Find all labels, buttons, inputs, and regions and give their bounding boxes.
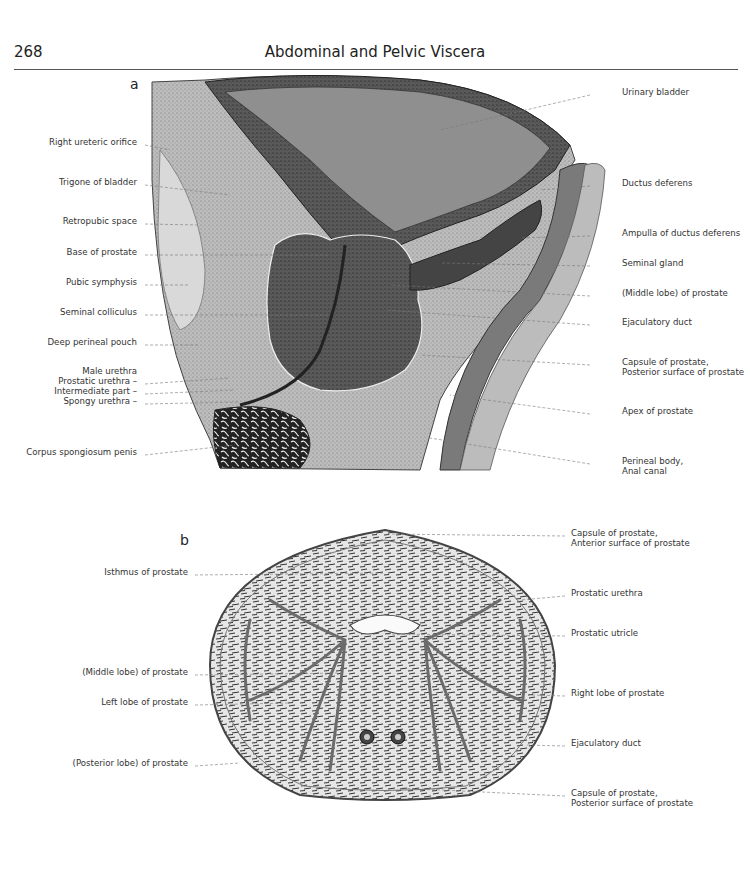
label-right-ureteric-orifice: Right ureteric orifice bbox=[49, 137, 137, 148]
panel-label-b: b bbox=[180, 532, 189, 548]
label-anterior-surface-of-prostate: Anterior surface of prostate bbox=[571, 538, 690, 549]
label-posterior-surface-of-prostate-b: Posterior surface of prostate bbox=[571, 798, 693, 809]
label-posterior-lobe-of-prostate: (Posterior lobe) of prostate bbox=[73, 758, 188, 769]
label-posterior-surface-of-prostate: Posterior surface of prostate bbox=[622, 367, 744, 378]
label-base-of-prostate: Base of prostate bbox=[67, 247, 138, 258]
label-seminal-gland: Seminal gland bbox=[622, 258, 683, 269]
label-middle-lobe-of-prostate-b: (Middle lobe) of prostate bbox=[82, 667, 188, 678]
label-ductus-deferens: Ductus deferens bbox=[622, 178, 692, 189]
label-middle-lobe-of-prostate: (Middle lobe) of prostate bbox=[622, 288, 728, 299]
label-anal-canal: Anal canal bbox=[622, 466, 667, 477]
label-ejaculatory-duct: Ejaculatory duct bbox=[622, 317, 692, 328]
figure-b-transverse-section bbox=[210, 530, 555, 800]
label-spongy-urethra: Spongy urethra – bbox=[63, 396, 137, 407]
label-ejaculatory-duct-b: Ejaculatory duct bbox=[571, 738, 641, 749]
label-deep-perineal-pouch: Deep perineal pouch bbox=[48, 337, 138, 348]
label-apex-of-prostate: Apex of prostate bbox=[622, 406, 693, 417]
label-prostatic-utricle: Prostatic utricle bbox=[571, 628, 638, 639]
label-left-lobe-of-prostate: Left lobe of prostate bbox=[101, 697, 188, 708]
label-seminal-colliculus: Seminal colliculus bbox=[60, 307, 137, 318]
label-isthmus-of-prostate: Isthmus of prostate bbox=[104, 567, 188, 578]
label-ampulla-of-ductus-deferens: Ampulla of ductus deferens bbox=[622, 228, 740, 239]
label-trigone-of-bladder: Trigone of bladder bbox=[59, 177, 137, 188]
label-urinary-bladder: Urinary bladder bbox=[622, 87, 689, 98]
label-right-lobe-of-prostate: Right lobe of prostate bbox=[571, 688, 664, 699]
label-prostatic-urethra-b: Prostatic urethra bbox=[571, 588, 643, 599]
label-pubic-symphysis: Pubic symphysis bbox=[66, 277, 137, 288]
label-retropubic-space: Retropubic space bbox=[63, 216, 137, 227]
panel-label-a: a bbox=[130, 76, 139, 92]
figure-a-sagittal-section bbox=[152, 75, 605, 470]
label-corpus-spongiosum-penis: Corpus spongiosum penis bbox=[26, 447, 137, 458]
